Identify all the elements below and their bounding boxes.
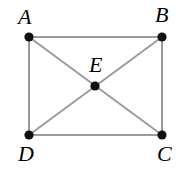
- vertex-point-b: [157, 32, 166, 41]
- vertex-label-b: B: [155, 4, 168, 26]
- vertex-label-c: C: [157, 143, 172, 165]
- vertex-point-c: [157, 130, 166, 139]
- vertex-point-e: [90, 81, 99, 90]
- vertex-point-d: [24, 130, 33, 139]
- vertex-label-e: E: [89, 54, 102, 76]
- geometry-figure: ABCDE: [0, 0, 188, 170]
- vertex-point-a: [24, 32, 33, 41]
- vertex-label-d: D: [18, 143, 34, 165]
- vertex-label-a: A: [18, 6, 31, 28]
